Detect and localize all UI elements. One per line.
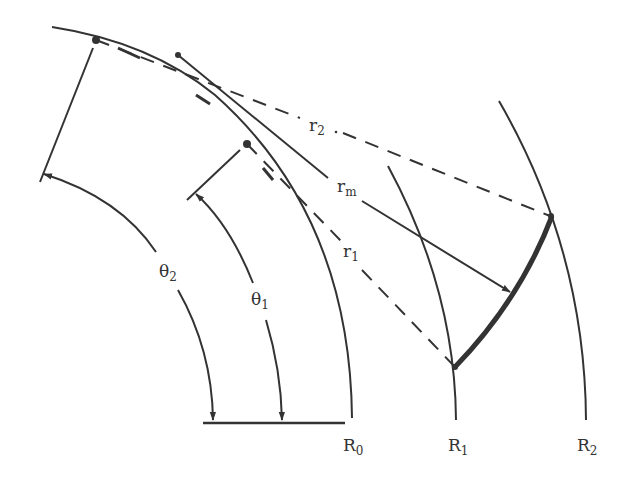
arc-R0 [52,27,352,418]
label-R2: R2 [577,435,597,458]
geometry-diagram: r2 rm r1 θ2 θ1 R0 R1 R2 [0,0,629,477]
arc-R2 [499,101,586,420]
theta2-ray [40,48,93,182]
radius-rm [178,55,328,178]
radius-r1-cont [362,270,455,367]
dot-r2-label [335,131,338,134]
point-r2-end [548,213,554,219]
point-r1-origin [243,140,251,148]
radius-r2-cont [343,133,550,216]
theta1-arc-top [196,194,253,283]
label-r1: r1 [343,241,359,264]
point-rm-origin [175,52,181,58]
theta1-ray [187,150,240,200]
arc-R1 [388,166,456,420]
theta2-arc-bottom [178,290,213,420]
theta2-arc-top [44,174,156,252]
point-r1-end [452,364,458,370]
thick-boundary-curve [455,216,552,367]
theta1-arc-bottom [266,320,282,420]
label-theta1: θ1 [251,289,269,312]
label-R1: R1 [448,435,468,458]
label-r2: r2 [309,115,325,138]
label-theta2: θ2 [159,261,177,284]
point-r2-origin [92,36,100,44]
tick-mark [196,95,210,104]
label-R0: R0 [343,435,363,458]
label-rm: rm [337,176,357,199]
radius-rm-cont [362,201,510,292]
